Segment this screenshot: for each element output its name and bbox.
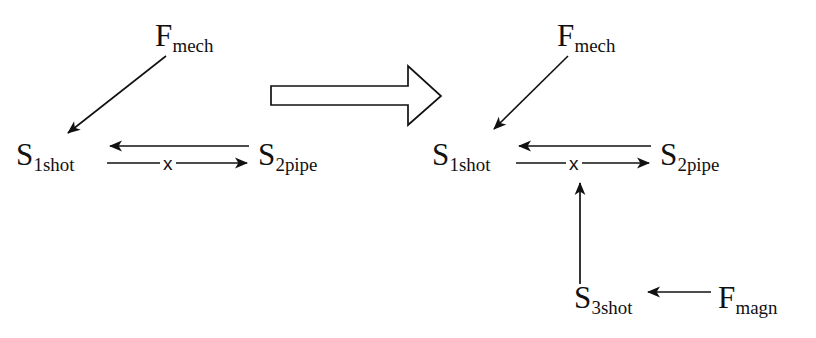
block-arrow-shape [271, 66, 441, 125]
right-label-force-magn: Fmagn [718, 282, 777, 318]
right-arrow-fmech-to-state1 [494, 56, 568, 129]
left-label-state-2pipe: S2pipe [258, 139, 317, 175]
left-label-force-mech: Fmech [155, 20, 213, 56]
left-label-state-1shot: S1shot [16, 139, 74, 175]
diagram-canvas: Fmech S1shot S2pipe x Fmech S1shot S2pip… [0, 0, 816, 338]
right-blocked-x-marker: x [566, 154, 582, 173]
right-label-force-mech: Fmech [557, 20, 615, 56]
right-label-state-1shot: S1shot [432, 139, 490, 175]
left-arrow-fmech-to-state1 [68, 56, 166, 133]
right-label-state-2pipe: S2pipe [660, 139, 719, 175]
right-label-state-3shot: S3shot [574, 282, 632, 318]
left-blocked-x-marker: x [160, 154, 176, 173]
